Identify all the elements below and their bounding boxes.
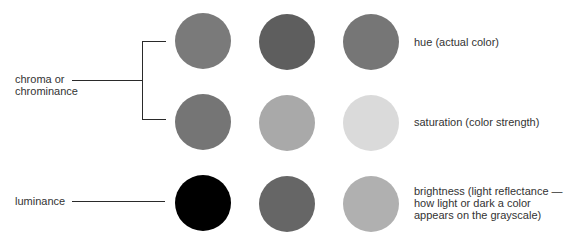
luminance-connector-line (72, 201, 165, 202)
brightness-label: brightness (light reflectance — how ligh… (414, 185, 563, 221)
saturation-label: saturation (color strength) (414, 116, 539, 128)
brightness-label-line3: appears on the grayscale) (414, 209, 563, 221)
brightness-swatch-2 (259, 176, 315, 232)
saturation-swatch-3 (343, 95, 399, 151)
saturation-swatch-2 (259, 95, 315, 151)
luminance-label: luminance (15, 195, 65, 207)
hue-swatch-1 (175, 13, 231, 69)
bracket-top-line (142, 41, 166, 42)
hue-label: hue (actual color) (414, 36, 499, 48)
brightness-swatch-1 (175, 175, 231, 231)
chroma-connector-line (72, 80, 143, 81)
brightness-label-line1: brightness (light reflectance — (414, 185, 563, 197)
brightness-label-line2: how light or dark a color (414, 197, 563, 209)
hue-swatch-2 (259, 14, 315, 70)
chroma-label: chroma or chrominance (15, 73, 78, 97)
bracket-bottom-line (142, 119, 166, 120)
hue-swatch-3 (343, 14, 399, 70)
brightness-swatch-3 (343, 176, 399, 232)
bracket-vertical-line (142, 41, 143, 120)
chroma-label-line2: chrominance (15, 85, 78, 97)
chroma-label-line1: chroma or (15, 73, 78, 85)
saturation-swatch-1 (175, 94, 231, 150)
